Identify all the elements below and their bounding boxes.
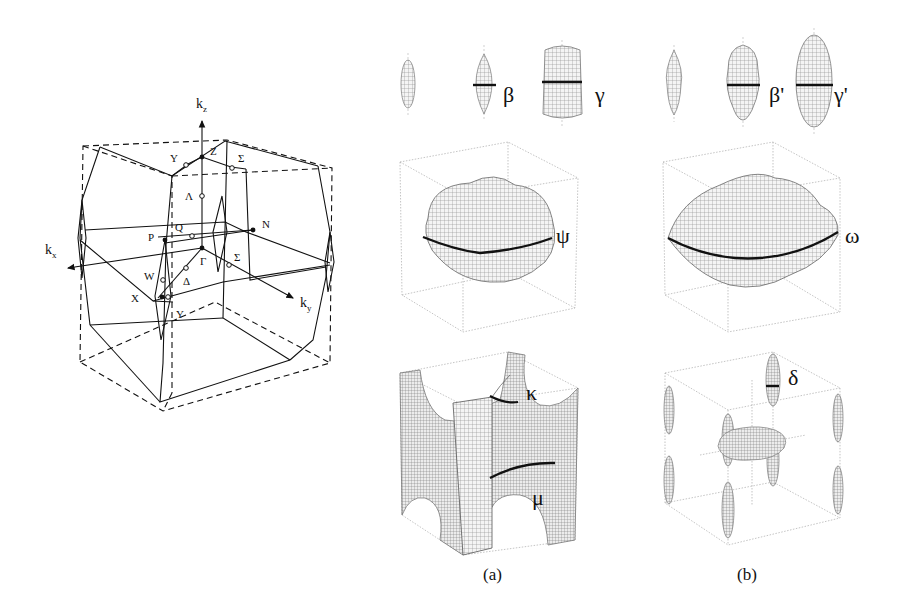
- label-gamma-prime: γ': [834, 84, 848, 106]
- figure-canvas: [0, 0, 900, 613]
- label-p: P: [148, 232, 154, 243]
- pocket-gamma-prime: [796, 28, 833, 136]
- label-sigma-mid: Σ: [234, 252, 240, 263]
- panel-b-shapes: [663, 28, 843, 545]
- kx-axis-label: kx: [45, 243, 57, 260]
- label-n: N: [262, 219, 270, 230]
- label-omega: ω: [845, 225, 859, 247]
- caption-a: (a): [483, 566, 502, 583]
- label-kappa: κ: [526, 382, 537, 404]
- label-z: Z: [210, 146, 217, 157]
- p-point: [163, 238, 168, 243]
- surface-delta: [664, 354, 843, 538]
- pocket-alpha-a: [401, 53, 415, 115]
- dashed-bounding-box: [80, 140, 332, 411]
- label-y-top: Y: [170, 153, 178, 164]
- panel-a-shapes: [400, 40, 582, 555]
- label-psi: ψ: [556, 225, 570, 247]
- label-sigma-top: Σ: [238, 153, 244, 164]
- label-lambda: Λ: [185, 191, 193, 202]
- label-delta-pocket: δ: [788, 367, 798, 389]
- label-q: Q: [175, 222, 183, 233]
- zone-edges: [80, 141, 330, 402]
- caption-b: (b): [737, 566, 757, 583]
- surface-kappa-mu: [400, 352, 578, 555]
- label-delta: Δ: [183, 276, 190, 287]
- kz-axis-label: kz: [196, 97, 207, 114]
- pocket-alpha-b: [666, 45, 681, 122]
- label-y-bottom: Y: [176, 309, 184, 320]
- label-gamma-pocket: γ: [595, 84, 605, 106]
- label-beta-prime: β': [769, 84, 784, 106]
- pocket-gamma: [542, 40, 582, 128]
- n-point: [251, 228, 256, 233]
- ky-axis-label: ky: [300, 296, 312, 313]
- pocket-beta: [473, 45, 496, 120]
- gamma-point: [200, 246, 205, 251]
- label-x: X: [131, 293, 139, 304]
- label-beta: β: [503, 84, 514, 106]
- label-mu: μ: [532, 487, 544, 509]
- surface-omega: [668, 174, 838, 287]
- x-point: [160, 295, 165, 300]
- surface-psi: [426, 177, 555, 282]
- pocket-beta-prime: [727, 37, 760, 128]
- z-point: [200, 155, 205, 160]
- label-gamma: Γ: [200, 256, 206, 267]
- kx-axis: [68, 248, 202, 268]
- label-w: W: [144, 271, 154, 282]
